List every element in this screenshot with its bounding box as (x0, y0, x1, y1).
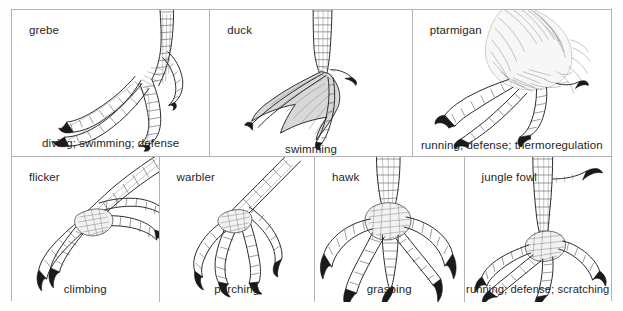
panel-title-ptarmigan: ptarmigan (430, 24, 482, 36)
panel-caption-warbler: perching (160, 283, 314, 295)
panel-warbler: warbler perching (160, 157, 315, 302)
panel-title-hawk: hawk (332, 171, 359, 183)
panel-duck: duck swimming (210, 10, 412, 156)
figure-grid-frame: grebe diving; swimming; defense (11, 9, 612, 301)
panel-title-warbler: warbler (177, 171, 215, 183)
panel-caption-ptarmigan: running; defense; thermoregulation (413, 139, 611, 151)
panel-title-junglefowl: jungle fowl (482, 171, 537, 183)
panel-caption-hawk: grasping (315, 283, 464, 295)
figure-row-top: grebe diving; swimming; defense (12, 10, 611, 157)
panel-caption-flicker: climbing (12, 283, 159, 295)
panel-title-grebe: grebe (29, 24, 59, 36)
figure-row-bottom: flicker climbing (12, 157, 611, 302)
panel-title-duck: duck (227, 24, 252, 36)
panel-caption-grebe: diving; swimming; defense (12, 137, 209, 149)
panel-hawk: hawk grasping (315, 157, 465, 302)
figure-root: grebe diving; swimming; defense (0, 0, 623, 311)
panel-caption-junglefowl: running; defense; scratching (465, 283, 612, 295)
panel-grebe: grebe diving; swimming; defense (12, 10, 210, 156)
panel-junglefowl: jungle fowl running; defense; scratching (465, 157, 612, 302)
panel-caption-duck: swimming (210, 143, 411, 155)
panel-flicker: flicker climbing (12, 157, 160, 302)
panel-title-flicker: flicker (29, 171, 60, 183)
panel-ptarmigan: ptarmigan running; defense; thermoregula… (413, 10, 611, 156)
